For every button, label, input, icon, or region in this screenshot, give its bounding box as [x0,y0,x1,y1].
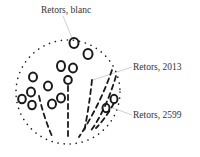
loop-oval [57,61,65,71]
loop-oval [27,88,35,97]
leader-line-2599 [110,107,132,115]
loop-oval [44,82,52,91]
label-retors-blanc: Retors, blanc [41,6,91,16]
label-retors-2013: Retors, 2013 [133,63,182,73]
diagram-canvas [0,0,200,157]
strand-2013-a [84,80,92,132]
loop-oval [29,73,37,82]
loop-oval [70,38,79,48]
loop-oval [57,94,65,103]
leader-line-blanc [63,16,72,38]
strand-2013-c [90,76,116,132]
loop-oval [69,64,77,73]
loop-oval [64,76,72,84]
loop-oval [111,95,118,103]
loop-oval [18,95,26,103]
label-retors-2599: Retors, 2599 [133,111,182,121]
strand-left [39,96,52,136]
leader-line-2013 [93,67,132,80]
loops-group [18,38,117,112]
dotted-boundary-circle [16,40,120,144]
leader-lines [63,16,132,115]
loop-oval [48,100,56,109]
loop-oval [84,49,93,59]
loop-oval [28,101,36,109]
